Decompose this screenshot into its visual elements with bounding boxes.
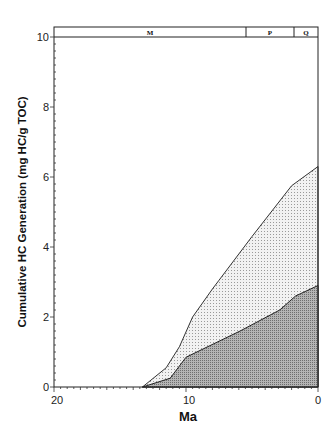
y-tick-label-10: 10 [37, 31, 49, 43]
y-tick-label-2: 2 [43, 311, 49, 323]
epoch-label-quaternary: Q [303, 29, 309, 37]
y-tick-label-4: 4 [43, 241, 49, 253]
y-tick-label-6: 6 [43, 171, 49, 183]
hc-generation-chart: M P Q 10 8 6 4 2 0 20 10 0 Ma Cumulative… [0, 0, 336, 440]
x-tick-label-20: 20 [51, 394, 63, 406]
y-axis-ticks [50, 37, 56, 387]
x-axis-title: Ma [179, 409, 198, 424]
y-axis-title: Cumulative HC Generation (mg HC/g TOC) [16, 96, 28, 327]
y-tick-label-0: 0 [43, 381, 49, 393]
x-tick-label-10: 10 [183, 394, 195, 406]
epoch-label-miocene: M [147, 29, 154, 37]
x-tick-label-0: 0 [315, 394, 321, 406]
epoch-label-pliocene: P [268, 29, 273, 37]
x-axis-ticks [54, 387, 318, 392]
y-tick-label-8: 8 [43, 101, 49, 113]
